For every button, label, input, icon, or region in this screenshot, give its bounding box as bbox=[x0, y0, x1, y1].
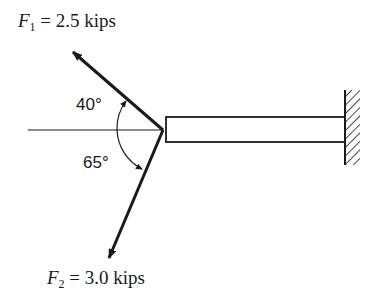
angle-arc-40 bbox=[117, 101, 126, 130]
force-subscript: 2 bbox=[59, 277, 65, 291]
wall-hatch bbox=[346, 90, 360, 165]
force-label-f2: F2 = 3.0 kips bbox=[47, 267, 145, 292]
diagram: F1 = 2.5 kips 40° 65° F2 = 3.0 kips bbox=[0, 0, 384, 297]
angle-arc-65 bbox=[117, 130, 142, 169]
force-subscript: 1 bbox=[30, 20, 36, 34]
angle-label-f1: 40° bbox=[76, 95, 102, 115]
force-symbol: F bbox=[47, 267, 59, 288]
force-value: = 2.5 kips bbox=[40, 10, 116, 31]
force-label-f1: F1 = 2.5 kips bbox=[18, 10, 116, 35]
force-value: = 3.0 kips bbox=[69, 267, 145, 288]
force-arrow-f2 bbox=[109, 130, 163, 258]
force-symbol: F bbox=[18, 10, 30, 31]
force-diagram-svg bbox=[0, 0, 384, 297]
angle-label-f2: 65° bbox=[83, 153, 109, 173]
beam bbox=[166, 117, 345, 142]
